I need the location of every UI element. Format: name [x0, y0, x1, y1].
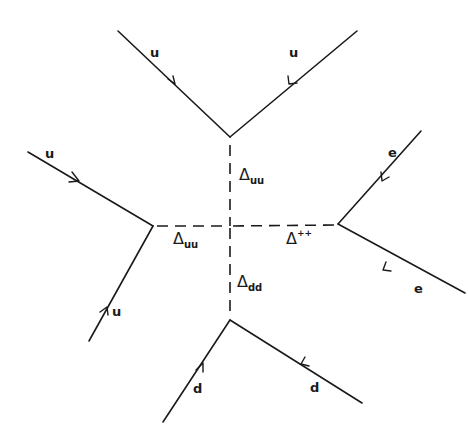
label-delta-uu-horizontal: Δuu — [173, 229, 198, 250]
arrow-icon — [288, 76, 297, 84]
top-vertex-group: u u — [118, 31, 357, 137]
label-bottom-left-d: d — [193, 381, 202, 396]
label-bottom-right-d: d — [310, 380, 319, 395]
bottom-right-d-line — [230, 320, 362, 403]
right-vertex-group: e e — [338, 131, 465, 296]
propagator-group: Δuu Δuu Δ++ Δdd — [157, 145, 334, 314]
label-top-right-u: u — [289, 45, 298, 60]
label-right-lower-e: e — [414, 281, 423, 296]
label-delta-dd: Δdd — [237, 272, 262, 293]
left-vertex-group: u u — [28, 146, 153, 341]
arrow-icon — [383, 262, 391, 271]
label-left-lower-u: u — [112, 304, 121, 319]
left-lower-u-line — [89, 226, 153, 341]
bottom-left-d-line — [163, 320, 230, 422]
arrow-icon — [168, 76, 175, 84]
label-right-upper-e: e — [388, 145, 397, 160]
right-upper-e-line — [338, 131, 421, 224]
delta-plusplus-line — [233, 225, 334, 226]
left-upper-u-line — [28, 152, 153, 226]
right-lower-e-line — [338, 224, 465, 293]
bottom-vertex-group: d d — [163, 320, 362, 422]
label-delta-plusplus: Δ++ — [286, 228, 312, 248]
arrow-icon — [301, 357, 309, 366]
feynman-diagram: u u u u e e d d Δuu — [0, 0, 468, 448]
label-left-upper-u: u — [45, 146, 54, 161]
label-top-left-u: u — [150, 45, 159, 60]
label-delta-uu-vertical: Δuu — [239, 165, 264, 186]
